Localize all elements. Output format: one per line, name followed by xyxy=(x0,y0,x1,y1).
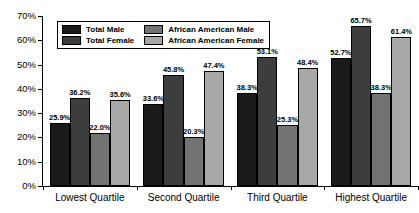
legend-swatch-african-american-female xyxy=(144,36,163,45)
bar-value-label: 38.3% xyxy=(371,84,392,92)
bar-value-label: 22.0% xyxy=(89,124,110,132)
y-axis-tick-mark xyxy=(38,40,42,41)
bar-rect xyxy=(143,104,163,186)
legend-swatch-total-male xyxy=(62,25,81,34)
bar: 48.4% xyxy=(298,16,318,186)
y-axis-tick-label: 70% xyxy=(17,11,36,21)
x-axis-tick-mark xyxy=(324,186,325,190)
bar-rect xyxy=(184,137,204,186)
y-axis-tick-label: 40% xyxy=(17,84,36,94)
bar-value-label: 38.3% xyxy=(237,84,258,92)
legend-label-african-american-female: African American Female xyxy=(168,36,264,45)
y-axis-tick-mark xyxy=(38,65,42,66)
y-axis-tick-mark xyxy=(38,113,42,114)
bar: 38.3% xyxy=(371,16,391,186)
legend-swatch-african-american-male xyxy=(144,25,163,34)
y-axis-tick-mark xyxy=(38,137,42,138)
bar-value-label: 48.4% xyxy=(297,59,318,67)
x-axis-tick-mark xyxy=(137,186,138,190)
legend-entry: African American Male xyxy=(144,25,264,34)
bar-value-label: 25.9% xyxy=(49,114,70,122)
bar-value-label: 35.6% xyxy=(109,91,130,99)
bar-rect xyxy=(70,98,90,186)
bar-value-label: 45.8% xyxy=(163,66,184,74)
bar-value-label: 61.4% xyxy=(391,28,412,36)
x-axis-category-label: Third Quartile xyxy=(247,192,308,204)
bar-rect xyxy=(204,71,224,186)
y-axis-tick-label: 50% xyxy=(17,60,36,70)
bar-rect xyxy=(110,100,130,186)
legend-entry: Total Female xyxy=(62,36,134,45)
bar-group: 52.7%65.7%38.3%61.4% xyxy=(324,16,418,186)
bar: 65.7% xyxy=(351,16,371,186)
bar-value-label: 65.7% xyxy=(350,17,371,25)
legend-entry: Total Male xyxy=(62,25,134,34)
bar-chart: 70%60%50%40%30%20%10%0% Total Male Afric… xyxy=(0,0,419,213)
bar: 52.7% xyxy=(331,16,351,186)
legend-label-total-female: Total Female xyxy=(86,36,134,45)
bar-value-label: 25.3% xyxy=(277,116,298,124)
y-axis-tick-mark xyxy=(38,186,42,187)
bar-rect xyxy=(298,68,318,186)
legend-label-african-american-male: African American Male xyxy=(168,25,254,34)
bar-rect xyxy=(50,123,70,186)
bar-rect xyxy=(163,75,183,186)
bar-value-label: 20.3% xyxy=(183,128,204,136)
y-axis-tick-label: 0% xyxy=(22,181,36,191)
bar-rect xyxy=(371,93,391,186)
x-axis-category-label: Lowest Quartile xyxy=(55,192,124,204)
bar-rect xyxy=(351,26,371,186)
legend-entry: African American Female xyxy=(144,36,264,45)
y-axis-tick-label: 20% xyxy=(17,133,36,143)
bar-value-label: 33.6% xyxy=(143,95,164,103)
bar-rect xyxy=(391,37,411,186)
bar: 61.4% xyxy=(391,16,411,186)
x-axis-tick-mark xyxy=(43,186,44,190)
legend-label-total-male: Total Male xyxy=(86,25,125,34)
bar-rect xyxy=(331,58,351,186)
chart-legend: Total Male African American Male Total F… xyxy=(57,21,270,49)
y-axis-tick-label: 10% xyxy=(17,157,36,167)
bar-value-label: 53.1% xyxy=(257,48,278,56)
bar-value-label: 52.7% xyxy=(330,49,351,57)
y-axis-tick-mark xyxy=(38,162,42,163)
bar-rect xyxy=(237,93,257,186)
bar-rect xyxy=(257,57,277,186)
x-axis-tick-mark xyxy=(231,186,232,190)
x-axis-category-label: Highest Quartile xyxy=(335,192,407,204)
y-axis-tick-label: 60% xyxy=(17,36,36,46)
y-axis-tick-mark xyxy=(38,89,42,90)
bar-rect xyxy=(277,125,297,186)
x-axis-category-label: Second Quartile xyxy=(148,192,220,204)
bar-value-label: 36.2% xyxy=(69,89,90,97)
bar-value-label: 47.4% xyxy=(203,62,224,70)
bar-rect xyxy=(90,133,110,186)
y-axis: 70%60%50%40%30%20%10%0% xyxy=(0,0,40,213)
y-axis-tick-label: 30% xyxy=(17,108,36,118)
legend-swatch-total-female xyxy=(62,36,81,45)
y-axis-tick-mark xyxy=(38,16,42,17)
bar: 25.3% xyxy=(277,16,297,186)
